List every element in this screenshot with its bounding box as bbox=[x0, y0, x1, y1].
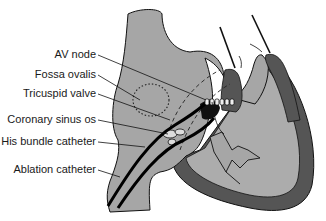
label-his-bundle-catheter: His bundle catheter bbox=[0, 135, 96, 147]
heart-diagram: AV node Fossa ovalis Tricuspid valve Cor… bbox=[0, 0, 326, 221]
label-tricuspid-valve: Tricuspid valve bbox=[6, 87, 96, 99]
heart-illustration bbox=[0, 0, 326, 221]
catheter-wire-2 bbox=[252, 15, 270, 53]
catheter-wire-1 bbox=[220, 27, 235, 68]
label-ablation-catheter: Ablation catheter bbox=[0, 163, 96, 175]
label-coronary-sinus-os: Coronary sinus os bbox=[0, 113, 96, 125]
septum-wall bbox=[221, 69, 242, 112]
label-fossa-ovalis: Fossa ovalis bbox=[20, 68, 96, 80]
label-av-node: AV node bbox=[30, 48, 96, 60]
